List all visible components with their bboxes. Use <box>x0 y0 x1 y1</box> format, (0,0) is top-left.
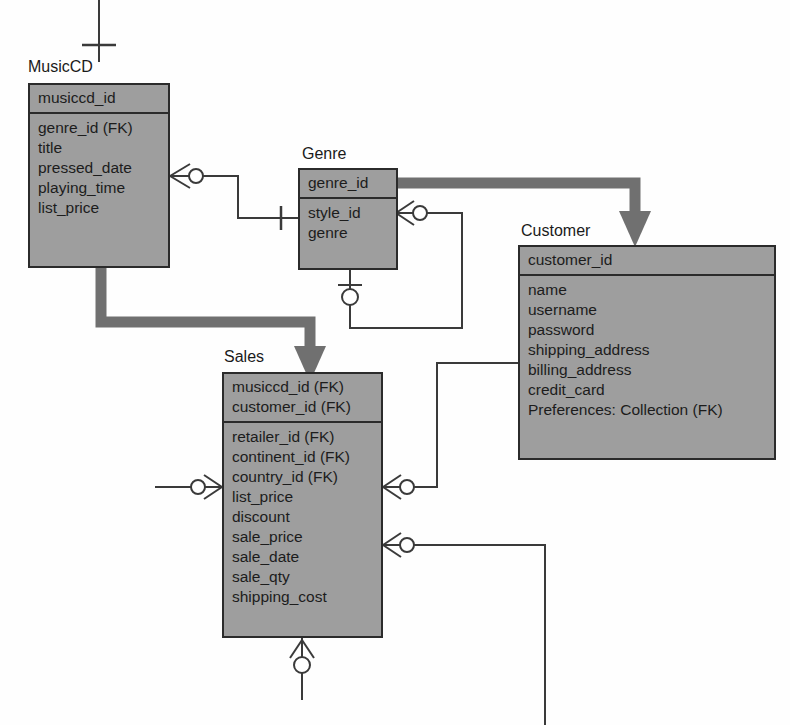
field-attr: name <box>528 280 766 300</box>
field-pk: musiccd_id (FK) <box>232 377 373 397</box>
field-pk: genre_id <box>308 173 388 193</box>
field-pk: customer_id (FK) <box>232 397 373 417</box>
entity-customer[interactable]: customer_id name username password shipp… <box>518 245 776 460</box>
field-attr: username <box>528 300 766 320</box>
identifying-arrow-musiccd-sales <box>101 268 326 382</box>
pk-zone-genre: genre_id <box>300 170 396 199</box>
field-attr: sale_date <box>232 547 373 567</box>
field-attr: Preferences: Collection (FK) <box>528 400 766 420</box>
attr-zone-musiccd: genre_id (FK) title pressed_date playing… <box>30 114 168 223</box>
cardinality-zero-many-sales-left <box>191 475 222 499</box>
pk-zone-musiccd: musiccd_id <box>30 85 168 114</box>
field-attr: list_price <box>38 198 160 218</box>
cardinality-zero-one-genre-bottom <box>338 285 362 305</box>
cardinality-zero-many-genre-right <box>396 201 427 225</box>
field-attr: sale_qty <box>232 567 373 587</box>
cardinality-zero-many-sales-bottom <box>290 640 314 673</box>
field-attr: title <box>38 138 160 158</box>
entity-genre[interactable]: genre_id style_id genre <box>298 168 398 270</box>
field-attr: genre <box>308 223 388 243</box>
field-attr: list_price <box>232 487 373 507</box>
cardinality-zero-many-sales-price <box>383 533 414 557</box>
attr-zone-sales: retailer_id (FK) continent_id (FK) count… <box>224 423 381 612</box>
entity-sales[interactable]: musiccd_id (FK) customer_id (FK) retaile… <box>222 372 383 638</box>
field-attr: shipping_cost <box>232 587 373 607</box>
field-attr: sale_price <box>232 527 373 547</box>
field-attr: genre_id (FK) <box>38 118 160 138</box>
entity-title-customer: Customer <box>521 222 590 240</box>
field-attr: country_id (FK) <box>232 467 373 487</box>
field-attr: credit_card <box>528 380 766 400</box>
attr-zone-customer: name username password shipping_address … <box>520 276 774 425</box>
attr-zone-genre: style_id genre <box>300 199 396 248</box>
field-attr: style_id <box>308 203 388 223</box>
field-attr: continent_id (FK) <box>232 447 373 467</box>
pk-zone-customer: customer_id <box>520 247 774 276</box>
field-attr: pressed_date <box>38 158 160 178</box>
pk-zone-sales: musiccd_id (FK) customer_id (FK) <box>224 374 381 423</box>
entity-title-sales: Sales <box>224 348 264 366</box>
entity-musiccd[interactable]: musiccd_id genre_id (FK) title pressed_d… <box>28 83 170 268</box>
entity-title-musiccd: MusicCD <box>28 58 93 76</box>
cardinality-zero-many-musiccd <box>170 164 203 188</box>
field-attr: discount <box>232 507 373 527</box>
field-attr: retailer_id (FK) <box>232 427 373 447</box>
cardinality-zero-many-sales-country <box>383 475 414 499</box>
field-pk: customer_id <box>528 250 766 270</box>
er-diagram-canvas: MusicCD musiccd_id genre_id (FK) title p… <box>0 0 790 725</box>
entity-title-genre: Genre <box>302 145 346 163</box>
field-attr: password <box>528 320 766 340</box>
field-attr: playing_time <box>38 178 160 198</box>
field-attr: shipping_address <box>528 340 766 360</box>
field-pk: musiccd_id <box>38 88 160 108</box>
field-attr: billing_address <box>528 360 766 380</box>
